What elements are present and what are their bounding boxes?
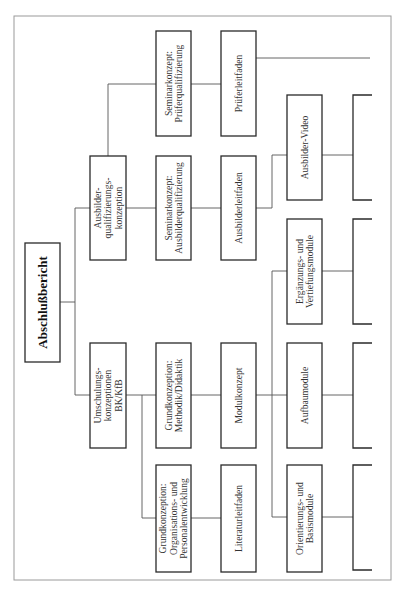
node-ausbilder-video: Ausbilder-Video xyxy=(287,95,322,200)
node-label-line: Ausbilderqualifizierung xyxy=(173,162,184,254)
node-abschlussbericht: Abschlußbericht xyxy=(25,243,60,362)
node-label-line: Prüferleitfaden xyxy=(233,55,244,113)
node-modulkonzept: Modulkonzept xyxy=(221,343,256,448)
node-label-line: Prüferqualifizierung xyxy=(173,44,184,122)
node-label-line: konzeption xyxy=(113,186,124,229)
node-label-line: Seminarkonzept: xyxy=(163,175,174,240)
node-aufbau: Aufbaumodule xyxy=(287,343,322,448)
truncated-brackets xyxy=(353,95,372,570)
node-label: Abschlußbericht xyxy=(35,256,50,349)
node-label-line: Orientierungs- und xyxy=(294,482,305,555)
connector-lines xyxy=(60,58,370,518)
node-label-line: Organisations- und xyxy=(168,482,179,555)
node-label-line: Vertiefungsmodule xyxy=(304,235,315,308)
node-label-line: Ausbilder- xyxy=(92,188,103,229)
bracket-ergaenzung xyxy=(353,219,372,324)
node-label-line: qualifizierungs- xyxy=(102,178,113,239)
node-label-line: Personalentwicklung xyxy=(178,478,189,559)
bracket-orientierung xyxy=(353,465,372,570)
node-sem-ausbilder: Seminarkonzept:Ausbilderqualifizierung xyxy=(156,156,191,260)
node-label-line: Grundkonzeption: xyxy=(157,484,168,554)
node-literaturleitfaden: Literaturleitfaden xyxy=(221,465,256,572)
diagram-frame xyxy=(14,16,391,580)
node-label-line: Methodik/Didaktik xyxy=(173,359,184,433)
node-grund-methodik: Grundkonzeption:Methodik/Didaktik xyxy=(156,343,191,448)
node-label-line: Ausbilder-Video xyxy=(299,115,310,179)
node-label-line: Aufbaumodule xyxy=(299,367,310,425)
node-ausbilderleitfaden: Ausbilderleitfaden xyxy=(221,156,256,260)
node-sem-pruefer: Seminarkonzept:Prüferqualifizierung xyxy=(156,31,191,136)
node-label-line: Ergänzungs- und xyxy=(294,239,305,304)
node-label-line: Basismodule xyxy=(304,494,315,544)
node-label-line: konzeptionen xyxy=(102,369,113,421)
node-label-line: Grundkonzeption: xyxy=(163,361,174,431)
node-grund-orga: Grundkonzeption:Organisations- undPerson… xyxy=(156,465,191,572)
org-chart-diagram: Abschlußbericht Umschulungs-konzeptionen… xyxy=(0,0,401,590)
node-label-line: BK/KfB xyxy=(113,379,124,412)
node-label-line: Literaturleitfaden xyxy=(233,485,244,552)
node-prueferleitfaden: Prüferleitfaden xyxy=(221,31,256,136)
node-label-line: Ausbilderleitfaden xyxy=(233,172,244,244)
node-ergaenzung: Ergänzungs- undVertiefungsmodule xyxy=(287,219,322,324)
node-orientierung: Orientierungs- undBasismodule xyxy=(287,465,322,572)
node-label-line: Seminarkonzept: xyxy=(163,51,174,116)
node-umschulung: Umschulungs-konzeptionenBK/KfB xyxy=(90,343,126,448)
node-ausbilderquali: Ausbilder-qualifizierungs-konzeption xyxy=(90,156,126,260)
bracket-aufbau xyxy=(353,343,372,448)
node-label-line: Modulkonzept xyxy=(233,367,244,423)
node-label-line: Umschulungs- xyxy=(92,368,103,424)
bracket-ausbilder-video xyxy=(353,95,372,200)
